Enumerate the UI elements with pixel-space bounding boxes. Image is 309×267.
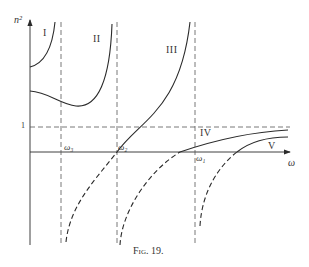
omega2-label: ω₂ — [118, 143, 127, 152]
omega3-label: ω₃ — [64, 143, 73, 152]
curve-branch-V — [237, 137, 288, 152]
dispersion-diagram — [0, 0, 309, 267]
branch-label-III: III — [166, 45, 178, 55]
curve-branch-V-evanescent — [200, 152, 237, 226]
curve-branch-IV-evanescent — [120, 152, 180, 245]
unity-tick-label: 1 — [21, 122, 25, 130]
x-axis-label: ω — [288, 158, 295, 168]
omega1-label: ω₁ — [196, 154, 205, 163]
branch-label-V: V — [268, 141, 276, 151]
branch-label-IV: IV — [200, 128, 212, 138]
curve-branch-III-evanescent — [66, 152, 117, 242]
y-axis-label: n² — [14, 15, 22, 25]
branch-label-I: I — [43, 28, 47, 38]
curve-branch-III — [117, 22, 190, 152]
branch-label-II: II — [93, 34, 101, 44]
figure-caption: Fig. 19. — [133, 245, 163, 256]
